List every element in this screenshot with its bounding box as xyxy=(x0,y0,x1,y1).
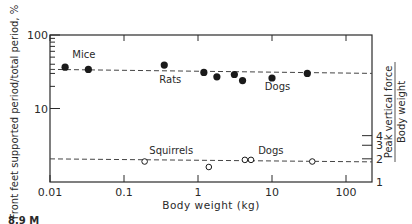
x-tick-label: 100 xyxy=(336,186,357,199)
data-point-open xyxy=(242,157,248,163)
y2-tick-label: 2 xyxy=(376,153,383,166)
data-point-filled xyxy=(85,66,92,73)
chart: Front feet supported period/total period… xyxy=(0,0,412,224)
data-point-open xyxy=(206,164,212,170)
annotation-label: Dogs xyxy=(258,145,283,156)
data-point-filled xyxy=(231,71,238,78)
y-tick-label: 100 xyxy=(27,29,48,42)
figure-caption-fragment: 8.9 M xyxy=(8,215,39,224)
annotation-label: Dogs xyxy=(265,81,290,92)
y2-axis-title-denominator: Body weight xyxy=(396,81,407,143)
x-tick-label: 1 xyxy=(195,186,202,199)
x-axis-title: Body weight (kg) xyxy=(162,199,260,211)
fit-line-peak-force xyxy=(50,159,372,162)
y-tick-label: 10 xyxy=(34,103,48,116)
fit-line-front-feet-period xyxy=(50,69,372,73)
data-point-open xyxy=(309,159,315,165)
data-point-open xyxy=(248,157,254,163)
data-point-filled xyxy=(239,77,246,84)
y2-tick-label: 1 xyxy=(376,176,383,189)
annotation-label: Mice xyxy=(72,49,95,60)
annotation-label: Squirrels xyxy=(149,145,193,156)
data-point-filled xyxy=(62,64,69,71)
y2-tick-label: 3 xyxy=(376,139,383,152)
data-point-filled xyxy=(304,70,311,77)
x-tick-label: 0.1 xyxy=(115,186,133,199)
y2-axis-title: Peak vertical force Body weight xyxy=(383,62,407,162)
x-tick-label: 10 xyxy=(265,186,279,199)
data-point-open xyxy=(142,159,148,165)
data-point-filled xyxy=(213,73,220,80)
data-point-filled xyxy=(200,69,207,76)
y2-axis-title-numerator: Peak vertical force xyxy=(383,66,394,159)
y-axis-title: Front feet supported period/total period… xyxy=(9,5,20,219)
data-point-filled xyxy=(161,61,168,68)
x-tick-label: 0.01 xyxy=(38,186,63,199)
annotation-label: Rats xyxy=(159,74,181,85)
